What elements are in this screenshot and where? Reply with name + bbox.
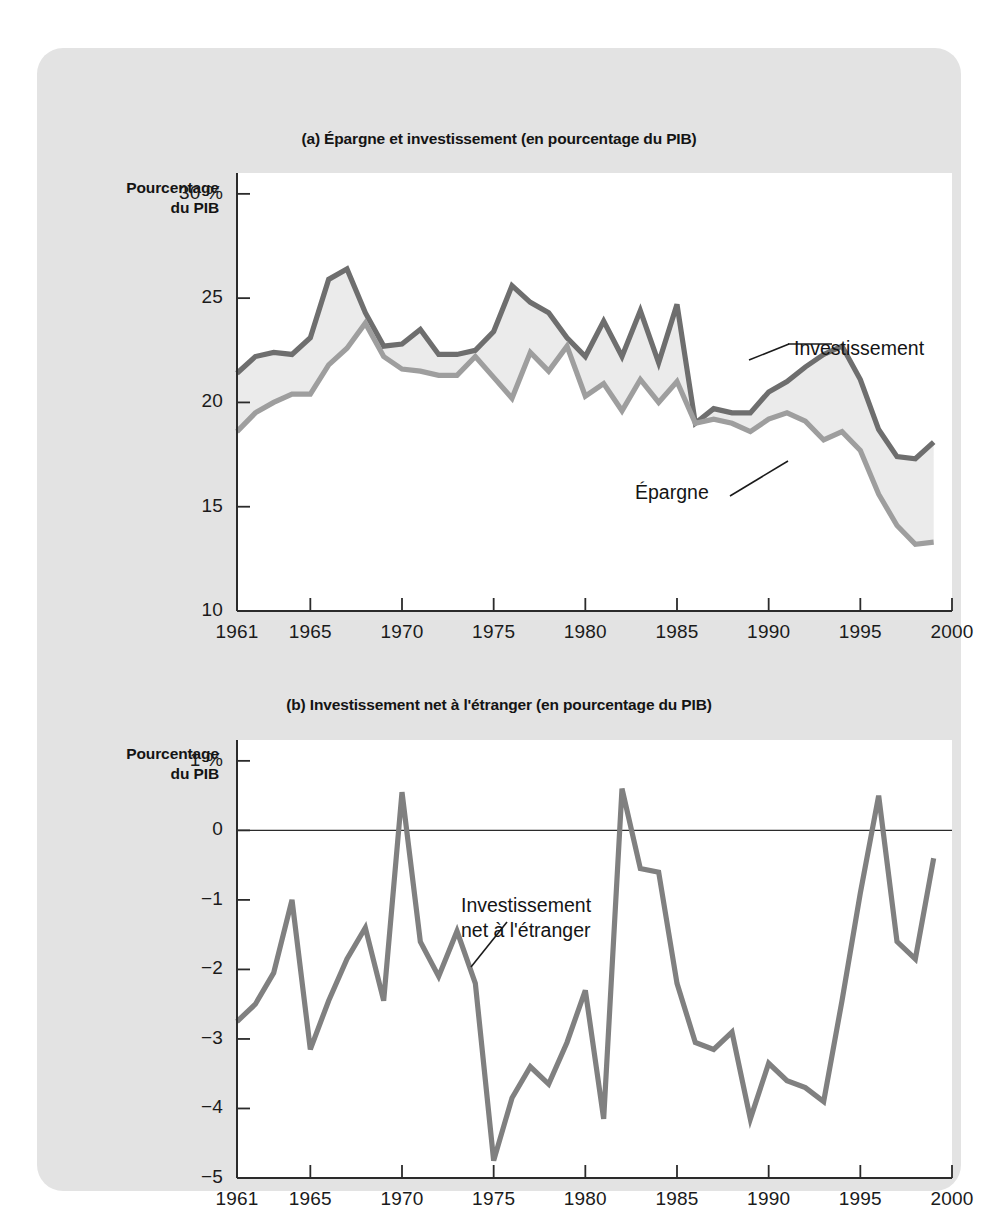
chart-b-xtick-2000: 2000 (917, 1188, 987, 1210)
chart-b-xtick-1961: 1961 (202, 1188, 272, 1210)
chart-b-xtick-1965: 1965 (275, 1188, 345, 1210)
chart-a-xtick-1990: 1990 (734, 621, 804, 643)
chart-b-ytick-1: 1 % (151, 749, 223, 771)
chart-a-ytick-20: 20 (151, 390, 223, 412)
chart-b-ytick--5: −5 (151, 1166, 223, 1188)
chart-a-ytick-30: 30 % (151, 182, 223, 204)
chart-b-ytick-0: 0 (151, 818, 223, 840)
chart-a-xtick-1965: 1965 (275, 621, 345, 643)
chart-a-ytick-15: 15 (151, 495, 223, 517)
chart-a-xtick-1980: 1980 (550, 621, 620, 643)
chart-b-ytick--1: −1 (151, 888, 223, 910)
chart-b-xtick-1990: 1990 (734, 1188, 804, 1210)
chart-b-xtick-1975: 1975 (459, 1188, 529, 1210)
chart-a-ytick-10: 10 (151, 599, 223, 621)
chart-b-label-investissement-net: Investissement net à l'étranger (461, 893, 591, 943)
chart-a-xtick-2000: 2000 (917, 621, 987, 643)
chart-a-xtick-1985: 1985 (642, 621, 712, 643)
chart-b-xtick-1985: 1985 (642, 1188, 712, 1210)
chart-a-xtick-1975: 1975 (459, 621, 529, 643)
chart-a-xtick-1961: 1961 (202, 621, 272, 643)
chart-a-xtick-1995: 1995 (825, 621, 895, 643)
chart-b-ytick--4: −4 (151, 1096, 223, 1118)
chart-a-xtick-1970: 1970 (367, 621, 437, 643)
chart-a-ytick-25: 25 (151, 286, 223, 308)
chart-b-xtick-1995: 1995 (825, 1188, 895, 1210)
chart-b-xtick-1980: 1980 (550, 1188, 620, 1210)
chart-b-ytick--2: −2 (151, 957, 223, 979)
figure-panel: (a) Épargne et investissement (en pource… (37, 48, 961, 1191)
chart-b-series-0 (237, 789, 934, 1161)
chart-b-ytick--3: −3 (151, 1027, 223, 1049)
chart-b-xtick-1970: 1970 (367, 1188, 437, 1210)
